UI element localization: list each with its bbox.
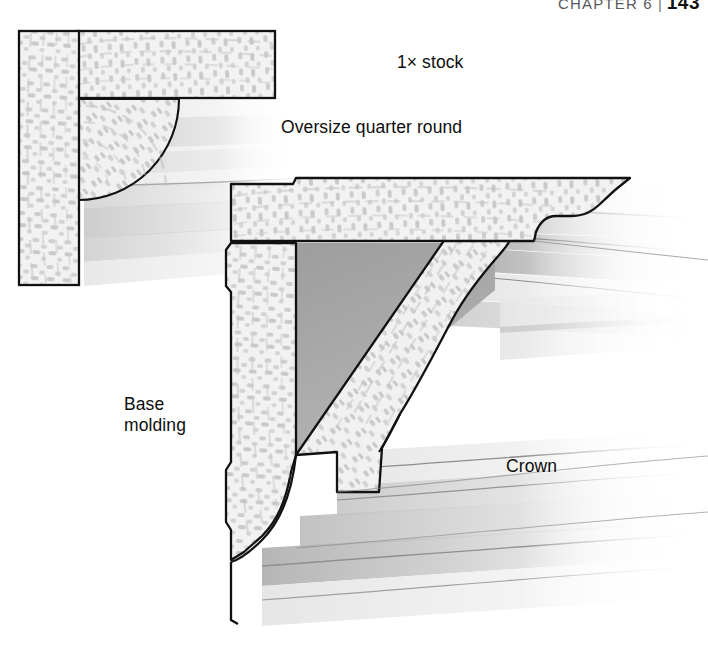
label-crown: Crown [506,456,557,477]
label-base-molding: Base molding [124,394,186,436]
base-molding-bottom-edge [231,562,238,624]
crown-belly-run [500,290,708,360]
molding-cross-section-figure [0,0,708,650]
label-oversize-quarter-round: Oversize quarter round [281,117,462,138]
main-assembly [226,178,708,626]
page-canvas: CHAPTER 6 | 143 [0,0,708,650]
label-1x-stock: 1× stock [397,52,463,73]
